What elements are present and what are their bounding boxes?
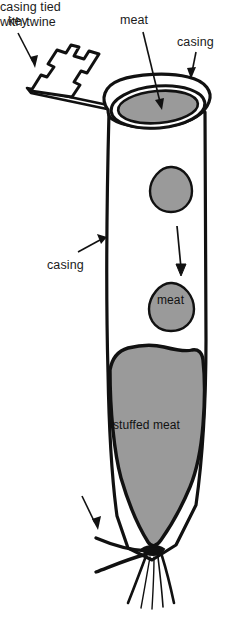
twine-tie: [96, 538, 174, 609]
leader-arrow-key: [18, 33, 38, 68]
label-casing-top: casing: [177, 35, 214, 50]
diagram-canvas: key meat casing casing meat stuffed meat…: [0, 0, 226, 622]
leader-arrow-twine: [82, 496, 101, 530]
leader-casing-mid-shaft: [78, 240, 100, 252]
leader-arrow-casing-top: [187, 52, 196, 79]
label-stuffed-meat: stuffed meat: [113, 418, 180, 433]
casing-fringe-3: [152, 557, 154, 609]
label-meat-top: meat: [120, 13, 148, 28]
label-meat-piece: meat: [157, 293, 184, 308]
leader-key-head: [30, 55, 38, 68]
label-key: key: [8, 14, 28, 29]
label-casing-middle: casing: [47, 258, 84, 273]
key-bit: [31, 45, 99, 97]
leader-arrow-casing-middle: [78, 234, 107, 252]
twine-strand-lower: [96, 554, 147, 572]
casing-fringe-5: [162, 556, 174, 603]
meat-piece-upper: [150, 167, 192, 212]
casing-fringe-4: [158, 557, 163, 607]
sausage-casing-diagram: [0, 0, 226, 622]
